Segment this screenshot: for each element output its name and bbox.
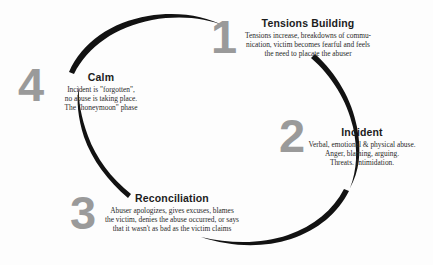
phase-2-desc-line-3: Threats. Intimidation. [302,158,422,167]
phase-2-desc-line-1: Verbal, emotional & physical abuse. [302,140,422,149]
phase-number-2: 2 [279,112,304,159]
arc-segment-calm-to-tensions [69,14,224,74]
phase-title-calm: Calm [55,71,147,83]
phase-1-text-block: Tensions Building Tensions increase, bre… [232,17,384,58]
arc-segment-tensions-to-incident [311,54,359,188]
phase-title-tensions-building: Tensions Building [232,17,384,29]
cycle-of-abuse-diagram: 1 Tensions Building Tensions increase, b… [0,0,433,265]
phase-2-text-block: Incident Verbal, emotional & physical ab… [302,126,422,167]
phase-title-reconciliation: Reconciliation [96,192,248,204]
phase-3-desc-line-1: Abuser apologizes, gives excuses, blames [96,206,248,215]
phase-4-desc-line-3: The "honeymoon" phase [55,103,147,112]
phase-4-desc-line-2: no abuse is taking place. [55,94,147,103]
phase-1-desc-line-1: Tensions increase, breakdowns of commu- [232,31,384,40]
phase-3-text-block: Reconciliation Abuser apologizes, gives … [96,192,248,233]
phase-description-calm: Incident is "forgotten", no abuse is tak… [55,85,147,113]
phase-1-desc-line-3: the need to placate the abuser [232,49,384,58]
phase-3-desc-line-3: that it wasn't as bad as the victim clai… [96,224,248,233]
phase-4-desc-line-1: Incident is "forgotten", [55,85,147,94]
phase-4-text-block: Calm Incident is "forgotten", no abuse i… [55,71,147,112]
phase-description-tensions-building: Tensions increase, breakdowns of commu- … [232,31,384,59]
phase-description-reconciliation: Abuser apologizes, gives excuses, blames… [96,206,248,234]
phase-title-incident: Incident [302,126,422,138]
phase-2-desc-line-2: Anger, blaming, arguing. [302,149,422,158]
phase-1-desc-line-2: nication, victim becomes fearful and fee… [232,40,384,49]
phase-description-incident: Verbal, emotional & physical abuse. Ange… [302,140,422,168]
phase-3-desc-line-2: the victim, denies the abuse occurred, o… [96,215,248,224]
phase-number-4: 4 [18,61,43,108]
phase-number-3: 3 [70,189,95,236]
